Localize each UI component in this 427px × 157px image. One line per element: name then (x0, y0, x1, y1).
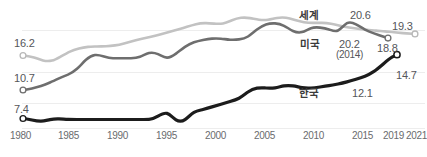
series-line-korea (20, 52, 400, 122)
value-label-world-end: 19.3 (392, 21, 413, 32)
value-label-usa-end: 18.8 (377, 43, 398, 54)
end-marker-usa (385, 35, 391, 41)
value-label-korea-mid: 12.1 (352, 88, 373, 99)
series-label-world: 세계 (299, 10, 318, 21)
x-tick-2005: 2005 (254, 131, 275, 141)
start-marker-world (20, 53, 26, 59)
x-tick-1985: 1985 (58, 131, 79, 141)
value-label-usa-peak-year: (2014) (336, 50, 363, 60)
value-label-world-peak: 20.6 (350, 10, 371, 21)
x-tick-2000: 2000 (205, 131, 226, 141)
series-label-usa: 미국 (300, 39, 319, 50)
value-label-korea-end: 14.7 (396, 70, 417, 81)
x-tick-1990: 1990 (107, 131, 128, 141)
x-axis: 1980 1985 1990 1995 2000 2005 2010 2015 … (0, 131, 425, 147)
x-tick-2010: 2010 (303, 131, 324, 141)
x-tick-2015: 2015 (352, 131, 373, 141)
start-label-korea: 7.4 (14, 104, 29, 115)
start-label-usa: 10.7 (14, 73, 35, 84)
x-tick-2021: 2021 (406, 131, 427, 141)
gridlines (22, 31, 425, 129)
x-tick-1995: 1995 (156, 131, 177, 141)
series-label-korea: 한국 (299, 88, 318, 99)
x-tick-1980: 1980 (10, 131, 31, 141)
start-marker-korea (20, 116, 26, 122)
start-label-world: 16.2 (14, 38, 35, 49)
start-marker-usa (20, 87, 26, 93)
x-tick-2019: 2019 (383, 131, 404, 141)
